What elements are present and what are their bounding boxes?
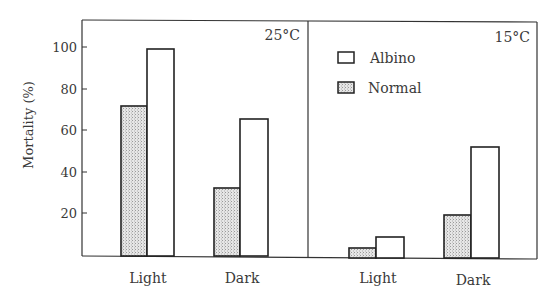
y-axis-title: Mortality (%) bbox=[21, 81, 36, 169]
bar-25c-dark-normal bbox=[214, 188, 240, 256]
panel-label-25c: 25°C bbox=[264, 27, 300, 43]
bar-15c-light-normal bbox=[349, 248, 376, 258]
x-axis-labels: Light Dark Light Dark bbox=[129, 270, 491, 288]
bars-25c bbox=[121, 49, 268, 256]
legend-swatch-normal bbox=[338, 82, 354, 93]
tick-60: 60 bbox=[60, 123, 77, 138]
mortality-chart: 100 80 60 40 20 Mortality (%) 25°C 15°C … bbox=[0, 0, 560, 302]
tick-40: 40 bbox=[60, 165, 77, 180]
cat-25c-light: Light bbox=[129, 270, 167, 286]
cat-15c-light: Light bbox=[359, 270, 397, 286]
bar-15c-dark-normal bbox=[444, 215, 471, 258]
legend: Albino Normal bbox=[338, 50, 422, 96]
cat-25c-dark: Dark bbox=[225, 270, 260, 286]
bar-15c-dark-albino bbox=[471, 147, 499, 258]
tick-80: 80 bbox=[60, 82, 77, 97]
legend-label-normal: Normal bbox=[368, 80, 422, 96]
tick-100: 100 bbox=[52, 40, 77, 55]
bar-25c-light-normal bbox=[121, 106, 147, 256]
bar-25c-dark-albino bbox=[240, 119, 268, 256]
y-axis-ticks bbox=[82, 47, 87, 213]
bar-15c-light-albino bbox=[376, 237, 404, 258]
bar-25c-light-albino bbox=[147, 49, 174, 256]
y-axis-labels: 100 80 60 40 20 bbox=[52, 40, 77, 221]
legend-swatch-albino bbox=[338, 52, 354, 63]
panel-label-15c: 15°C bbox=[494, 29, 530, 45]
tick-20: 20 bbox=[60, 206, 77, 221]
cat-15c-dark: Dark bbox=[456, 272, 491, 288]
legend-label-albino: Albino bbox=[369, 50, 415, 66]
bars-15c bbox=[349, 147, 499, 258]
